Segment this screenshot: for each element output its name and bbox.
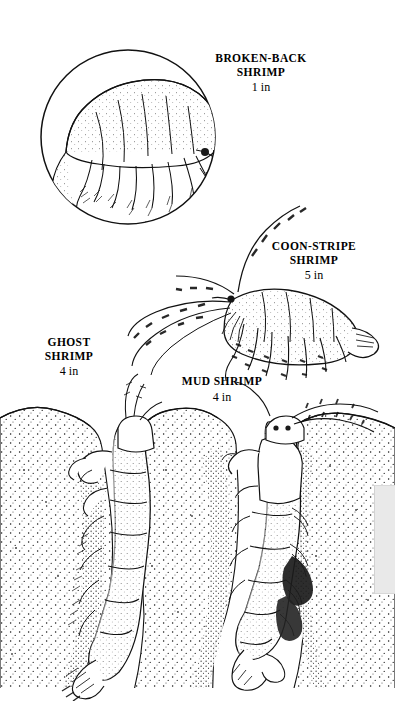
species-name: GHOST SHRIMP [26,336,112,363]
label-ghost-shrimp: GHOST SHRIMP 4 in [26,336,112,378]
species-name: MUD SHRIMP [166,375,278,389]
species-name: COON-STRIPE SHRIMP [258,240,370,267]
species-name: BROKEN-BACK SHRIMP [206,52,316,79]
label-broken-back-shrimp: BROKEN-BACK SHRIMP 1 in [206,52,316,94]
label-coon-stripe-shrimp: COON-STRIPE SHRIMP 5 in [258,240,370,282]
species-size: 5 in [258,268,370,282]
label-mud-shrimp: MUD SHRIMP 4 in [166,375,278,404]
species-size: 4 in [166,390,278,404]
species-size: 1 in [206,80,316,94]
sediment-burrow-scene [0,407,395,701]
page-side-tab[interactable] [374,485,395,594]
illustration-plate: SHRIMPS [0,0,395,701]
species-size: 4 in [26,364,112,378]
